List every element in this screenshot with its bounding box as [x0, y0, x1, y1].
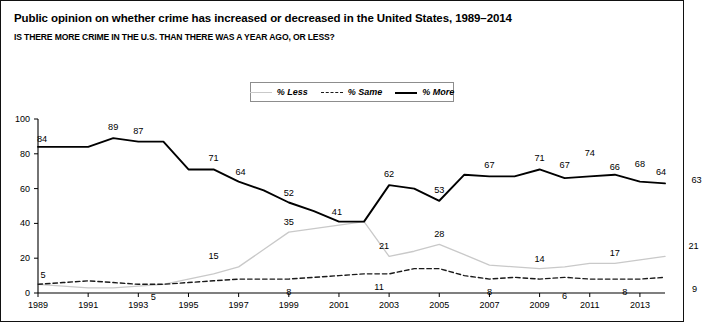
y-tick-label: 20	[4, 253, 30, 263]
data-point-label: 66	[610, 162, 620, 172]
legend-label-same: % Same	[348, 87, 383, 97]
x-tick-label: 2001	[319, 300, 359, 310]
data-point-label: 87	[133, 126, 143, 136]
legend-label-less: % Less	[277, 87, 308, 97]
data-point-label: 8	[487, 287, 492, 297]
data-point-label: 6	[562, 291, 567, 301]
x-tick-label: 2011	[570, 300, 610, 310]
x-tick-label: 1991	[68, 300, 108, 310]
legend-swatch-less-icon	[250, 89, 272, 96]
data-point-label: 62	[384, 169, 394, 179]
x-tick-label: 2007	[469, 300, 509, 310]
data-point-label: 9	[692, 284, 697, 294]
data-point-label: 64	[656, 167, 666, 177]
data-point-label: 28	[434, 229, 444, 239]
data-point-label: 8	[286, 287, 291, 297]
data-point-label: 14	[534, 254, 544, 264]
legend-label-more: % More	[422, 87, 454, 97]
y-tick-label: 0	[4, 288, 30, 298]
data-point-label: 52	[284, 188, 294, 198]
data-point-label: 67	[484, 160, 494, 170]
x-tick-label: 1999	[269, 300, 309, 310]
data-point-label: 41	[332, 207, 342, 217]
chart-legend: % Less % Same % More	[250, 82, 454, 102]
data-point-label: 35	[284, 217, 294, 227]
data-point-label: 8	[622, 287, 627, 297]
x-tick-label: 2009	[520, 300, 560, 310]
y-tick-label: 80	[4, 149, 30, 159]
data-point-label: 21	[379, 241, 389, 251]
x-tick-label: 2005	[419, 300, 459, 310]
legend-item-same: % Same	[321, 87, 383, 97]
x-tick-label: 2003	[369, 300, 409, 310]
x-tick-label: 1995	[168, 300, 208, 310]
data-point-label: 68	[635, 159, 645, 169]
y-tick-label: 40	[4, 218, 30, 228]
data-point-label: 67	[560, 160, 570, 170]
data-point-label: 74	[585, 148, 595, 158]
legend-swatch-same-icon	[321, 89, 343, 96]
chart-subtitle: IS THERE MORE CRIME IN THE U.S. THAN THE…	[14, 32, 335, 42]
data-point-label: 84	[37, 134, 47, 144]
y-tick-label: 100	[4, 114, 30, 124]
data-point-label: 71	[208, 153, 218, 163]
data-point-label: 71	[534, 153, 544, 163]
data-point-label: 64	[236, 167, 246, 177]
legend-item-more: % More	[395, 87, 454, 97]
data-point-label: 21	[688, 241, 698, 251]
x-tick-label: 2013	[620, 300, 660, 310]
legend-item-less: % Less	[250, 87, 308, 97]
data-point-label: 89	[108, 122, 118, 132]
x-tick-label: 1989	[18, 300, 58, 310]
data-point-label: 5	[40, 270, 45, 280]
data-point-label: 15	[208, 251, 218, 261]
data-point-label: 5	[151, 292, 156, 302]
x-tick-label: 1997	[219, 300, 259, 310]
page-title: Public opinion on whether crime has incr…	[14, 12, 512, 24]
y-tick-label: 60	[4, 184, 30, 194]
legend-swatch-more-icon	[395, 89, 417, 96]
data-point-label: 63	[691, 175, 701, 185]
plot-area	[1, 1, 685, 322]
data-point-label: 53	[434, 185, 444, 195]
data-point-label: 17	[610, 248, 620, 258]
data-point-label: 11	[374, 282, 384, 292]
